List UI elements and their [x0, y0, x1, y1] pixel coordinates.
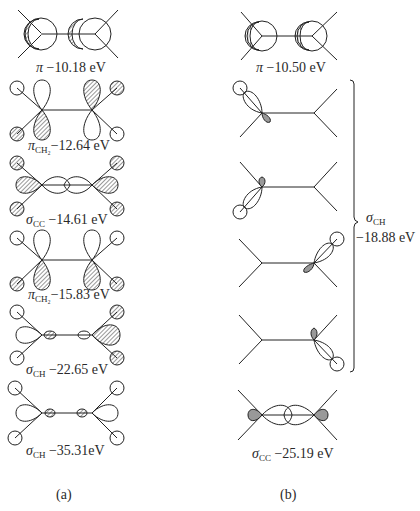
orbital-b4-sigma-ch	[239, 232, 344, 287]
label-bracket-symbol: σCH	[366, 210, 385, 227]
label-bracket-energy: −18.88 eV	[356, 230, 415, 246]
orbital-b5-sigma-ch	[239, 315, 344, 371]
label-a2: πCH₂−12.64 eV	[28, 138, 110, 155]
caption-a: (a)	[56, 487, 72, 503]
label-a5: σCH −22.65 eV	[26, 362, 108, 379]
orbital-a4-pi-ch2	[10, 230, 124, 291]
label-a1: π −10.18 eV	[36, 60, 106, 76]
orbital-b1-pi	[241, 12, 337, 60]
orbital-b3-sigma-ch	[233, 162, 337, 219]
orbital-diagram	[0, 0, 420, 511]
orbital-b2-sigma-ch	[233, 81, 337, 137]
orbital-a1-pi	[18, 10, 118, 58]
label-a3: σCC −14.61 eV	[26, 212, 108, 229]
label-a6: σCH −35.31eV	[26, 443, 105, 460]
caption-b: (b)	[280, 487, 296, 503]
orbital-a2-pi-ch2	[10, 80, 124, 141]
label-b6: σCC −25.19 eV	[252, 446, 334, 463]
orbital-a5-sigma-ch	[10, 305, 124, 365]
orbital-b6-sigma-cc	[238, 390, 337, 440]
orbital-a3-sigma-cc	[10, 156, 124, 216]
orbital-a6-sigma-ch	[8, 381, 124, 445]
sigma-ch-bracket	[350, 80, 358, 372]
label-b1: π −10.50 eV	[256, 60, 326, 76]
label-a4: πCH₂−15.83 eV	[28, 287, 110, 304]
